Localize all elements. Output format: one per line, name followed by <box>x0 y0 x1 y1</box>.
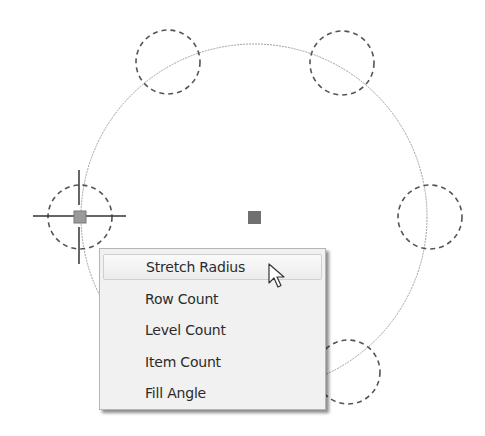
array-item-circle <box>136 30 200 94</box>
grip-context-menu: Stretch Radius Row Count Level Count Ite… <box>99 248 326 410</box>
menu-item-item-count[interactable]: Item Count <box>103 349 322 375</box>
center-grip[interactable] <box>248 211 261 224</box>
array-item-circle <box>398 185 462 249</box>
active-radius-grip[interactable] <box>74 211 86 223</box>
menu-item-row-count[interactable]: Row Count <box>103 286 322 312</box>
menu-item-fill-angle[interactable]: Fill Angle <box>103 380 322 406</box>
array-item-circle <box>310 31 374 95</box>
arrow-pointer-icon <box>268 263 288 291</box>
menu-item-stretch-radius[interactable]: Stretch Radius <box>103 254 322 280</box>
menu-item-level-count[interactable]: Level Count <box>103 317 322 343</box>
